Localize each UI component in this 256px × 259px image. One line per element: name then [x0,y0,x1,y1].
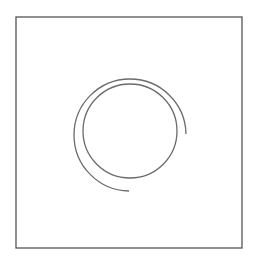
outer-spiral-arc [74,79,186,191]
diagram-canvas [0,0,256,259]
inner-circle [83,84,177,178]
frame-border [16,17,242,248]
